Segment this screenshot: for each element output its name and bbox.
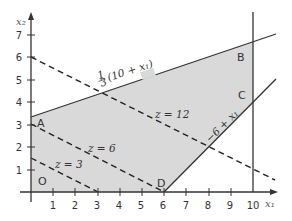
svg-text:4: 4 xyxy=(116,200,122,211)
y-tick-labels: 1 2 3 4 5 6 7 xyxy=(16,30,22,176)
vertex-label-c: C xyxy=(238,89,246,102)
vertex-label-o: O xyxy=(38,175,47,188)
svg-text:3: 3 xyxy=(94,200,100,211)
svg-text:2: 2 xyxy=(72,200,78,211)
svg-text:6: 6 xyxy=(16,52,22,63)
svg-text:9: 9 xyxy=(227,200,233,211)
svg-text:8: 8 xyxy=(205,200,211,211)
svg-text:6: 6 xyxy=(160,200,166,211)
x-tick-labels: 1 2 3 4 5 6 7 8 9 10 xyxy=(50,200,260,211)
objective-label-z6: z = 6 xyxy=(87,142,116,154)
vertex-label-b: B xyxy=(237,51,245,64)
y-axis-label: x₂ xyxy=(16,16,26,27)
vertex-label-d: D xyxy=(157,177,165,190)
svg-text:4: 4 xyxy=(16,97,22,108)
svg-text:10: 10 xyxy=(247,200,260,211)
svg-text:2: 2 xyxy=(16,142,22,153)
objective-label-z3: z = 3 xyxy=(54,158,83,170)
svg-text:7: 7 xyxy=(183,200,189,211)
svg-text:7: 7 xyxy=(16,30,22,41)
y-axis-arrow-icon xyxy=(28,12,34,20)
x-axis-label: x₁ xyxy=(265,198,275,209)
svg-text:1: 1 xyxy=(16,165,22,176)
objective-label-z12: z = 12 xyxy=(154,108,190,120)
svg-text:3: 3 xyxy=(16,120,22,131)
svg-text:1: 1 xyxy=(50,200,56,211)
x-axis-arrow-icon xyxy=(270,189,278,195)
svg-text:5: 5 xyxy=(16,75,22,86)
vertex-label-a: A xyxy=(37,117,45,130)
svg-text:5: 5 xyxy=(138,200,144,211)
lp-diagram: 1 2 3 4 5 6 7 8 9 10 x₁ 1 2 3 4 5 6 7 x₂… xyxy=(0,0,292,221)
